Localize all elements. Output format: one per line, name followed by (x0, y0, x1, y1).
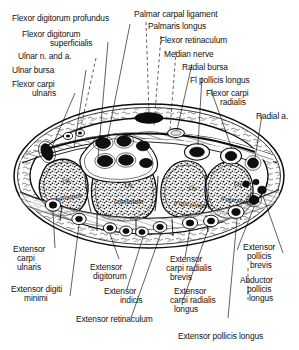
label-radial-bursa: Radial bursa (182, 63, 228, 72)
os-capitatum-line1: Os (125, 181, 133, 190)
flexor-pollicis-longus-tendon (190, 147, 205, 157)
label-extensor-retinaculum: Extensor retinaculum (76, 315, 153, 324)
label-flexor-carpi-ulnaris-line2: ulnaris (32, 89, 56, 98)
label-fl-pollicis-longus: Fl pollicis longus (190, 76, 250, 85)
os-capitatum-line2: capitatum (114, 197, 144, 206)
label-abductor-pollicis-longus-line3: longus (249, 294, 273, 303)
os-hamatum-line1: Os (62, 176, 72, 186)
label-median-nerve: Median nerve (164, 50, 214, 59)
extensor-indicis-tendon (157, 224, 164, 229)
label-flexor-digitorum-profundus: Flexor digitorum profundus (12, 14, 109, 23)
radial-artery-section (248, 158, 259, 168)
flexor-tendon (140, 158, 153, 167)
label-palmar-carpal-ligament: Palmar carpal ligament (134, 10, 217, 19)
label-palmaris-longus: Palmaris longus (148, 22, 206, 31)
os-trapezoides-line2: trapezoides (173, 198, 208, 211)
bone-label-os-capitatum: Os capitatum (104, 174, 146, 214)
label-extensor-pollicis-longus: Extensor pollicis longus (178, 332, 263, 341)
bone-label-os-trapezoides: Os trapezoides (164, 174, 212, 218)
flexor-tendon (119, 155, 134, 165)
label-extensor-pollicis-brevis-line3: brevis (250, 261, 272, 270)
label-ulnar-n-and-a: Ulnar n. and a. (18, 52, 71, 61)
flexor-tendon (96, 138, 111, 149)
os-trapezium-line2: trapezium (220, 193, 251, 207)
palmaris-longus-tendon (135, 113, 163, 123)
os-hamatum-line2: hamatum (55, 190, 84, 203)
label-radial-a: Radial a. (256, 112, 288, 121)
label-extensor-carpi-radialis-longus-line3: longus (174, 305, 198, 314)
os-trapezoides-line1: Os (188, 183, 197, 193)
abductor-pollicis-longus-tendon (258, 186, 266, 194)
bone-label-os-hamatum: Os hamatum (41, 167, 87, 213)
label-ulnar-bursa: Ulnar bursa (12, 66, 54, 75)
label-extensor-indicis-line2: indicis (120, 296, 143, 305)
os-trapezium-line1: Os (233, 179, 243, 189)
label-extensor-digitorum-line2: digitorum (93, 272, 127, 281)
flexor-tendon (117, 136, 131, 146)
extensor-digitorum-tendon (123, 229, 129, 234)
flexor-tendon (136, 141, 149, 151)
extensor-carpi-radialis-brevis-tendon (186, 220, 194, 226)
extensor-digitorum-tendon (107, 225, 113, 230)
extensor-digitorum-tendon (139, 230, 145, 235)
label-flexor-retinaculum: Flexor retinaculum (160, 36, 227, 45)
label-extensor-carpi-radialis-brevis-line3: brevis (170, 273, 192, 282)
wrist-cross-section-figure: Flexor digitorum profundus Flexor digito… (0, 0, 299, 350)
bone-label-os-trapezium: Os trapezium (209, 169, 257, 215)
flexor-carpi-radialis-tendon (225, 151, 237, 160)
extensor-carpi-radialis-longus-tendon (207, 218, 214, 224)
label-extensor-carpi-ulnaris-line3: ulnaris (17, 263, 41, 272)
flexor-tendon (97, 156, 113, 167)
label-flexor-digitorum-superficialis-line2: superficialis (50, 39, 92, 48)
label-flexor-carpi-radialis-line2: radialis (220, 98, 246, 107)
label-extensor-digiti-minimi-line2: minimi (24, 294, 48, 303)
extensor-digiti-minimi-tendon (76, 216, 83, 222)
